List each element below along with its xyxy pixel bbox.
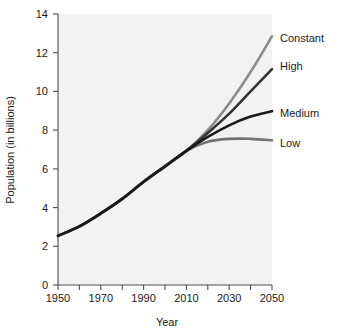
y-tick-label-10: 10 — [36, 85, 48, 97]
x-tick-label-1970: 1970 — [89, 292, 113, 304]
y-tick-label-12: 12 — [36, 47, 48, 59]
x-tick-label-1950: 1950 — [46, 292, 70, 304]
x-axis-title: Year — [156, 316, 179, 328]
x-tick-label-1990: 1990 — [131, 292, 155, 304]
x-axis-tick-labels: 1950 1970 1990 2010 2030 2050 — [46, 292, 284, 304]
y-axis-tick-labels: 0 2 4 6 8 10 12 14 — [36, 8, 48, 291]
x-tick-label-2030: 2030 — [217, 292, 241, 304]
plot-background — [58, 14, 272, 285]
y-tick-label-2: 2 — [42, 240, 48, 252]
y-tick-label-6: 6 — [42, 163, 48, 175]
series-label-constant: Constant — [280, 32, 324, 44]
x-axis-ticks — [58, 285, 272, 290]
y-tick-label-8: 8 — [42, 124, 48, 136]
series-label-high: High — [280, 60, 303, 72]
y-tick-label-14: 14 — [36, 8, 48, 20]
y-axis-title: Population (in billions) — [4, 96, 16, 204]
x-tick-label-2010: 2010 — [174, 292, 198, 304]
x-tick-label-2050: 2050 — [260, 292, 284, 304]
series-label-low: Low — [280, 137, 300, 149]
chart-canvas: 0 2 4 6 8 10 12 14 1950 1970 1990 2010 2… — [0, 0, 338, 336]
y-axis-ticks — [53, 14, 58, 285]
series-labels: ConstantHighMediumLow — [280, 32, 324, 149]
series-label-medium: Medium — [280, 107, 319, 119]
y-tick-label-0: 0 — [42, 279, 48, 291]
y-tick-label-4: 4 — [42, 202, 48, 214]
population-projection-chart: 0 2 4 6 8 10 12 14 1950 1970 1990 2010 2… — [0, 0, 338, 336]
